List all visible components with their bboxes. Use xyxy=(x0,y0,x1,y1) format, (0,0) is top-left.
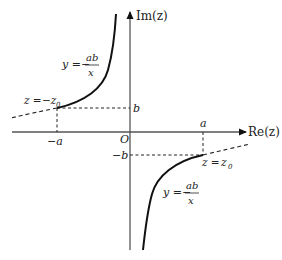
svg-text:x: x xyxy=(188,195,194,206)
upper-curve-equation: y =− ab x xyxy=(61,52,99,78)
lower-curve-equation: y =− ab x xyxy=(162,180,199,206)
svg-text:0: 0 xyxy=(56,101,61,109)
svg-text:ab: ab xyxy=(186,180,198,191)
origin-label: O xyxy=(120,133,129,146)
svg-text:−z: −z xyxy=(42,94,57,106)
svg-text:x: x xyxy=(88,67,94,78)
tick-neg-b: −b xyxy=(112,149,128,162)
point-label-z0: z = z 0 xyxy=(201,156,233,171)
svg-text:ab: ab xyxy=(86,52,98,63)
hyperbola-diagram: Im(z) Re(z) O b −b a −a z = −z 0 z = z 0… xyxy=(0,0,282,260)
lower-branch-curve xyxy=(143,155,203,250)
x-axis-label: Re(z) xyxy=(248,125,280,139)
tick-neg-a: −a xyxy=(47,135,63,148)
y-axis-label: Im(z) xyxy=(136,9,168,23)
svg-text:z =: z = xyxy=(23,94,42,106)
point-label-neg-z0: z = −z 0 xyxy=(23,94,61,109)
svg-text:z: z xyxy=(220,156,227,168)
svg-text:z =: z = xyxy=(201,156,220,168)
svg-text:0: 0 xyxy=(228,163,233,171)
tick-b: b xyxy=(133,102,140,115)
tick-a: a xyxy=(200,117,207,130)
